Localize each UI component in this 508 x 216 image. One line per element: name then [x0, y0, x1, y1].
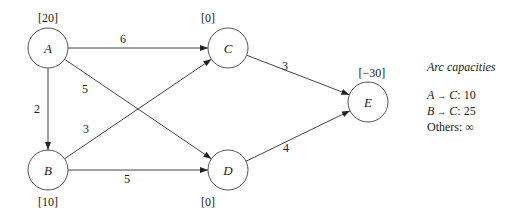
node-b: B[10] — [28, 150, 68, 209]
arrow-icon: → — [437, 107, 446, 117]
legend-line-a-c: A → C: 10 — [427, 88, 496, 104]
legend-capacity-value: : 10 — [457, 88, 475, 102]
node-label: B — [44, 163, 52, 178]
node-d: D[0] — [201, 150, 248, 209]
legend-line-b-c: B → C: 25 — [427, 104, 496, 120]
node-label: C — [224, 41, 233, 56]
node-a: A[20] — [28, 11, 68, 68]
legend-title: Arc capacities — [427, 60, 496, 75]
node-supply-label: [0] — [201, 11, 215, 25]
node-supply-label: [−30] — [359, 66, 386, 80]
arc-cost-label: 3 — [83, 122, 89, 136]
arc-cost-label: 5 — [124, 172, 130, 186]
node-supply-label: [0] — [201, 195, 215, 209]
arc-cost-label: 4 — [283, 141, 289, 155]
arc-cost-label: 3 — [282, 59, 288, 73]
arc-capacities-legend: Arc capacities A → C: 10 B → C: 25 Other… — [427, 60, 496, 135]
arrow-icon: → — [437, 91, 446, 101]
node-supply-label: [10] — [38, 195, 58, 209]
legend-line-others: Others: ∞ — [427, 120, 496, 135]
node-label: E — [363, 95, 372, 110]
node-e: E[−30] — [348, 66, 388, 122]
arc-c-e — [247, 55, 350, 95]
node-label: A — [43, 41, 52, 56]
legend-capacity-value: : 25 — [457, 104, 475, 118]
arc-cost-label: 6 — [120, 32, 126, 46]
node-supply-label: [20] — [38, 11, 58, 25]
node-label: D — [222, 163, 233, 178]
arc-cost-label: 5 — [82, 82, 88, 96]
legend-from-node: B — [427, 104, 434, 118]
arc-d-e — [246, 111, 350, 162]
arc-cost-label: 2 — [34, 102, 40, 116]
legend-from-node: A — [427, 88, 434, 102]
node-c: C[0] — [201, 11, 248, 68]
